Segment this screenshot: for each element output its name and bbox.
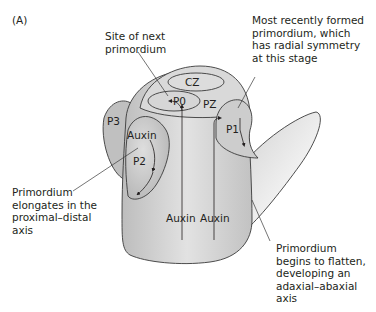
- annotation-line: Primordium: [276, 242, 366, 255]
- annotation-line: Primordium: [12, 186, 97, 199]
- annotation-line: elongates in the: [12, 199, 97, 212]
- annotation-line: developing an: [276, 267, 366, 280]
- annotation-line: axis: [276, 292, 366, 305]
- annotation-line: begins to flatten,: [276, 255, 366, 268]
- annotation-line: primordium, which: [252, 27, 364, 40]
- annotation-flatten: Primordium begins to flatten, developing…: [276, 242, 366, 305]
- annotation-elongates: Primordium elongates in the proximal–dis…: [12, 186, 97, 236]
- annotation-line: adaxial–abaxial: [276, 280, 366, 293]
- annotation-line: proximal–distal: [12, 211, 97, 224]
- label-pz: PZ: [203, 98, 217, 111]
- label-auxin-left: Auxin: [166, 212, 196, 225]
- label-auxin-right: Auxin: [200, 212, 230, 225]
- label-p1: P1: [226, 123, 239, 136]
- label-p3: P3: [107, 115, 120, 128]
- label-p2: P2: [133, 155, 146, 168]
- annotation-line: Most recently formed: [252, 14, 364, 27]
- annotation-site-next: Site of next primordium: [105, 30, 166, 55]
- annotation-line: at this stage: [252, 52, 364, 65]
- label-auxin-p2: Auxin: [127, 129, 157, 142]
- annotation-most-recent: Most recently formed primordium, which h…: [252, 14, 364, 64]
- annotation-line: axis: [12, 224, 97, 237]
- annotation-line: has radial symmetry: [252, 39, 364, 52]
- label-cz: CZ: [185, 76, 200, 89]
- label-p0: P0: [173, 95, 186, 108]
- annotation-line: Site of next: [105, 30, 166, 43]
- annotation-line: primordium: [105, 43, 166, 56]
- panel-label: (A): [12, 14, 27, 27]
